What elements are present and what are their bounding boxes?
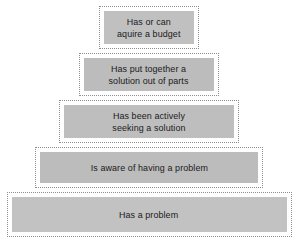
pyramid-level-4-label: Is aware of having a problem bbox=[90, 162, 207, 174]
pyramid-diagram: Has or can aquire a budget Has put toget… bbox=[0, 0, 298, 239]
pyramid-level-1-label: Has or can aquire a budget bbox=[117, 16, 180, 40]
pyramid-level-5-label: Has a problem bbox=[119, 209, 178, 221]
pyramid-level-2-label: Has put together a solution out of parts bbox=[109, 63, 189, 87]
pyramid-level-4-plate: Is aware of having a problem bbox=[40, 152, 258, 183]
pyramid-level-1[interactable]: Has or can aquire a budget bbox=[99, 6, 199, 49]
pyramid-level-2[interactable]: Has put together a solution out of parts bbox=[79, 53, 219, 96]
pyramid-level-3[interactable]: Has been actively seeking a solution bbox=[59, 100, 239, 143]
pyramid-level-3-label: Has been actively seeking a solution bbox=[112, 110, 185, 134]
pyramid-level-2-plate: Has put together a solution out of parts bbox=[84, 58, 214, 91]
pyramid-level-5[interactable]: Has a problem bbox=[7, 192, 292, 237]
pyramid-level-1-plate: Has or can aquire a budget bbox=[104, 11, 194, 44]
pyramid-level-3-plate: Has been actively seeking a solution bbox=[64, 105, 234, 138]
pyramid-levels-stack: Has or can aquire a budget Has put toget… bbox=[0, 0, 298, 239]
pyramid-level-4[interactable]: Is aware of having a problem bbox=[35, 147, 263, 188]
pyramid-level-5-plate: Has a problem bbox=[12, 197, 287, 232]
